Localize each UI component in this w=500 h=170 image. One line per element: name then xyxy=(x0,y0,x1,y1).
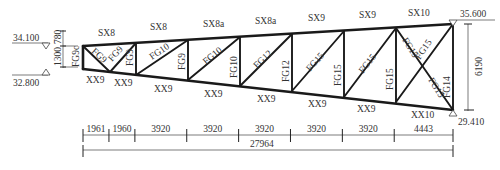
web-label: FG9 xyxy=(125,49,135,66)
web-label: FG9 xyxy=(177,53,187,70)
bottom-chord-label: XX9 xyxy=(357,104,376,114)
web-label: FG12 xyxy=(281,60,291,82)
elevation-right-top: 35.600 xyxy=(460,9,486,19)
end-post-label: FG9c xyxy=(71,46,81,67)
elevation-left-top: 34.100 xyxy=(13,33,39,43)
top-chord-label: SX8 xyxy=(150,22,167,32)
span-dim-label: 4443 xyxy=(414,124,433,134)
bottom-chord-label: XX9 xyxy=(204,89,223,99)
bottom-chord-label: XX9 xyxy=(257,94,276,104)
web-label: FG10 xyxy=(201,45,224,67)
span-dim-label: 3920 xyxy=(151,124,170,134)
web-label: FG14 xyxy=(442,76,452,98)
bottom-chord-label: XX9 xyxy=(86,75,105,85)
right-dim-value: 6190 xyxy=(474,57,484,76)
web-label: FG15 xyxy=(333,64,343,86)
web-label: FG9 xyxy=(106,44,125,63)
web-label: FG10 xyxy=(229,56,239,78)
span-dim-label: 3920 xyxy=(307,124,326,134)
web-label: FG12 xyxy=(251,48,274,70)
top-chord-label: SX10 xyxy=(408,8,430,18)
top-chord-label: SX9 xyxy=(308,13,325,23)
web-label: FG15 xyxy=(304,50,326,73)
truss-drawing: SX8 SX8 SX8a SX8a SX9 SX9 SX10 XX9 XX9 X… xyxy=(0,0,500,170)
span-dim-label: 1961 xyxy=(86,124,105,134)
left-dim-upper: 780 xyxy=(53,30,63,45)
elevation-left-bottom: 32.800 xyxy=(13,78,39,88)
top-chord-label: SX8a xyxy=(255,16,277,26)
support-triangle-left-top xyxy=(42,43,50,49)
elevation-right-bottom: 29.410 xyxy=(458,117,484,127)
web-label: FG15 xyxy=(385,68,395,90)
top-chord-label: SX9 xyxy=(359,10,376,20)
support-triangle-left-bottom xyxy=(42,69,50,75)
bottom-chord-label: XX9 xyxy=(308,99,327,109)
web-label: FG15 xyxy=(413,37,434,61)
span-dim-label: 3920 xyxy=(255,124,274,134)
span-dim-label: 3920 xyxy=(203,124,222,134)
top-chord-label: SX8 xyxy=(98,28,115,38)
top-chord-label: SX8a xyxy=(203,19,225,29)
span-dim-labels: 19611960392039203920392039204443 xyxy=(86,124,433,134)
bottom-chord-label: XX10 xyxy=(411,110,434,120)
top-chord xyxy=(83,24,453,46)
span-dim-label: 3920 xyxy=(359,124,378,134)
total-span-value: 27964 xyxy=(250,139,274,149)
left-dim-lower: 1300 xyxy=(53,47,63,66)
bottom-chord-label: XX9 xyxy=(114,78,133,88)
truss-diagram: SX8 SX8 SX8a SX8a SX9 SX9 SX10 XX9 XX9 X… xyxy=(0,0,500,170)
span-dim-label: 1960 xyxy=(112,124,131,134)
bottom-chord-label: XX9 xyxy=(154,84,173,94)
